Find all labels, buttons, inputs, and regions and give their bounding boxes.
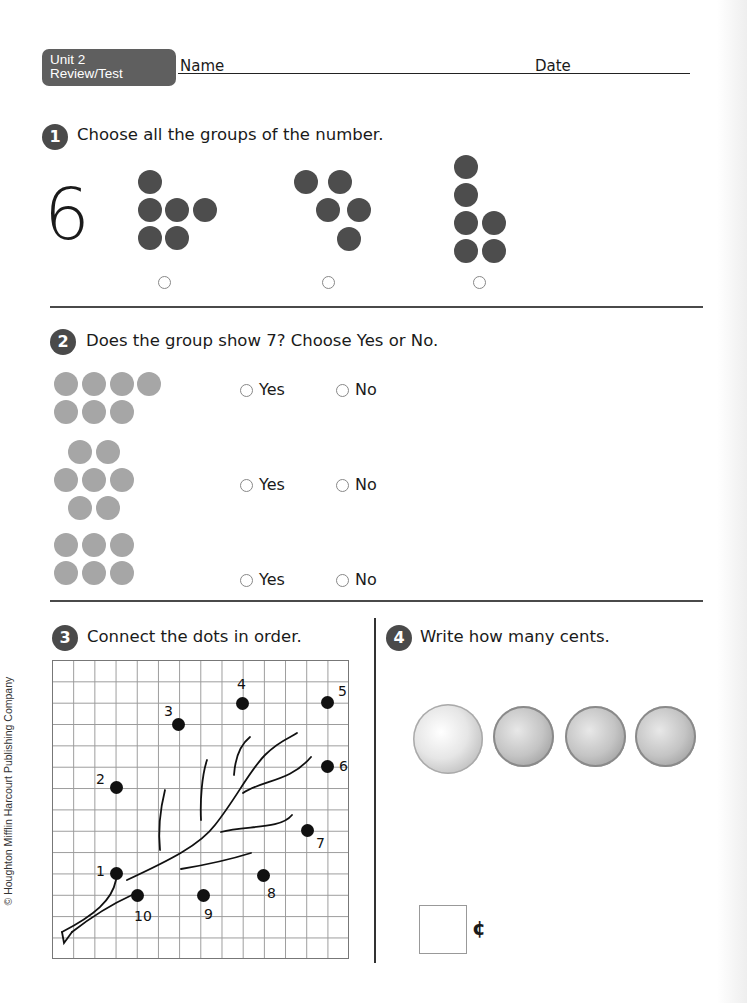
dot-9-label: 9 — [204, 906, 213, 922]
dot-7-label: 7 — [316, 835, 325, 851]
dot-6-label: 6 — [339, 758, 348, 774]
question-4-prompt: Write how many cents. — [420, 627, 610, 646]
penny-coin-icon — [493, 706, 554, 767]
dot-5[interactable] — [321, 696, 334, 709]
dot-1[interactable] — [110, 867, 123, 880]
dot-8-label: 8 — [267, 885, 276, 901]
dot-7[interactable] — [301, 824, 314, 837]
dot-3-label: 3 — [164, 703, 173, 719]
dot-1-label: 1 — [96, 863, 105, 879]
dot-4-label: 4 — [237, 676, 246, 692]
nickel-coin-icon — [413, 704, 483, 774]
dot-10-label: 10 — [134, 908, 152, 924]
dot-9[interactable] — [197, 889, 210, 902]
dot-4[interactable] — [236, 697, 249, 710]
dot-8[interactable] — [257, 869, 270, 882]
dot-10[interactable] — [131, 889, 144, 902]
dot-5-label: 5 — [338, 683, 347, 699]
leaf-branch-drawing — [0, 0, 747, 1003]
copyright-text: © Houghton Mifflin Harcourt Publishing C… — [2, 691, 14, 906]
penny-coin-icon — [565, 706, 626, 767]
dot-3[interactable] — [172, 718, 185, 731]
question-4-number-icon: 4 — [386, 625, 412, 651]
dot-2-label: 2 — [96, 771, 105, 787]
dot-2[interactable] — [110, 781, 123, 794]
penny-coin-icon — [635, 706, 696, 767]
cent-symbol: ¢ — [472, 916, 486, 940]
dot-6[interactable] — [321, 760, 334, 773]
cents-answer-box[interactable] — [419, 905, 467, 954]
